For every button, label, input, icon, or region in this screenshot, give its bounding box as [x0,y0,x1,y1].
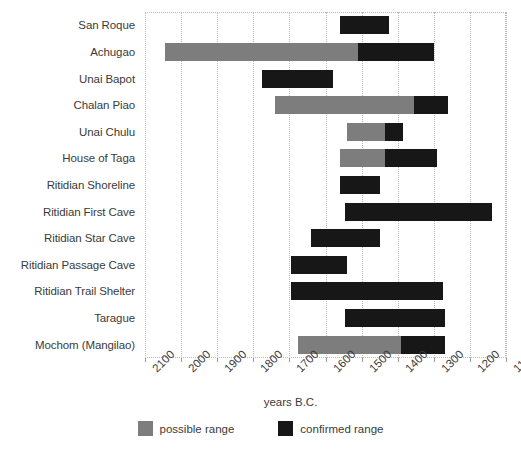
bar-segment-confirmed-range [358,43,434,61]
gridline [326,12,327,358]
bar-group [347,123,403,141]
bar-segment-confirmed-range [345,203,491,221]
x-tick-label: 1900 [222,366,230,374]
bar-segment-possible-range [165,43,358,61]
category-label: Ritidian Trail Shelter [34,285,135,297]
gridline [253,12,254,358]
bar-segment-possible-range [340,149,385,167]
chart-legend: possible range confirmed range [0,421,521,436]
bar-group [311,229,380,247]
x-tick-label: 2000 [186,366,194,374]
x-axis-title: years B.C. [0,396,521,408]
category-label: Ritidian Star Cave [44,232,135,244]
x-axis-title-text: years B.C. [264,396,318,408]
x-tick-label: 1200 [475,366,483,374]
gridline [506,12,507,358]
bar-segment-confirmed-range [340,176,380,194]
bar-segment-confirmed-range [262,70,332,88]
gridline [289,12,290,358]
bar-group [262,70,332,88]
legend-item-possible-range: possible range [138,421,235,436]
bar-segment-confirmed-range [414,96,448,114]
x-tick-label: 1700 [294,366,302,374]
category-axis-labels: San RoqueAchugaoUnai BapotChalan PiaoUna… [0,12,141,358]
bar-group [340,149,437,167]
legend-label-confirmed-range: confirmed range [300,423,383,435]
x-tick-label: 1100 [511,366,519,374]
legend-swatch-confirmed-range [278,421,293,436]
plot-area [145,12,506,358]
bar-group [345,309,444,327]
category-label: Ritidian Passage Cave [21,259,135,271]
bar-group [340,176,380,194]
x-tick-label: 2100 [150,366,158,374]
category-label: Achugao [90,46,135,58]
category-label: Unai Chulu [79,126,135,138]
category-label: Chalan Piao [73,99,135,111]
bar-group [340,16,389,34]
category-label: Mochom (Mangilao) [35,339,135,351]
gridline [470,12,471,358]
x-tick-label: 1400 [403,366,411,374]
bar-group [345,203,491,221]
legend-item-confirmed-range: confirmed range [278,421,383,436]
gridline [181,12,182,358]
bar-segment-confirmed-range [311,229,380,247]
gridline [145,12,146,358]
category-label: San Roque [78,19,135,31]
bar-segment-possible-range [275,96,414,114]
x-tick-label: 1600 [331,366,339,374]
category-label: House of Taga [62,152,135,164]
category-label: Ritidian Shoreline [47,179,135,191]
gridline [434,12,435,358]
gridline [217,12,218,358]
bar-segment-confirmed-range [385,149,437,167]
category-label: Tarague [94,312,135,324]
bar-segment-confirmed-range [291,282,443,300]
range-chart: San RoqueAchugaoUnai BapotChalan PiaoUna… [0,0,521,462]
category-label: Ritidian First Cave [43,206,135,218]
x-tick-label: 1500 [367,366,375,374]
bar-segment-confirmed-range [345,309,444,327]
gridline [398,12,399,358]
bar-group [291,256,347,274]
bar-group [165,43,434,61]
x-tick-label: 1800 [258,366,266,374]
bar-segment-confirmed-range [385,123,403,141]
legend-label-possible-range: possible range [160,423,235,435]
category-label: Unai Bapot [79,73,135,85]
legend-swatch-possible-range [138,421,153,436]
x-tick-label: 1300 [439,366,447,374]
bar-group [275,96,448,114]
bar-group [291,282,443,300]
bar-segment-confirmed-range [291,256,347,274]
bar-segment-confirmed-range [340,16,389,34]
bar-segment-possible-range [347,123,385,141]
